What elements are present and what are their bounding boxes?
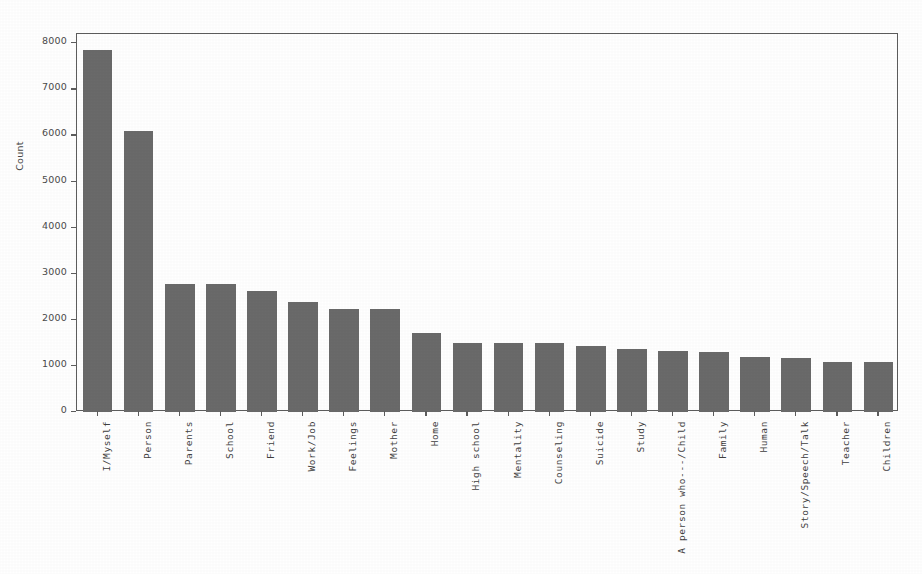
x-tick-mark [97, 411, 98, 416]
y-tick: 3000 [0, 273, 76, 274]
x-tick-label: Family [717, 421, 728, 459]
x-tick-label: Teacher [840, 421, 851, 465]
y-tick-mark [71, 411, 76, 412]
x-tick-label: Mentality [512, 421, 523, 478]
x-tick-mark [179, 411, 180, 416]
bar-chart-figure: Count 010002000300040005000600070008000 … [0, 0, 922, 574]
x-tick-label: Friend [265, 421, 276, 459]
x-tick-label: School [224, 421, 235, 459]
bar [658, 351, 688, 412]
x-tick-mark [590, 411, 591, 416]
y-tick-label: 8000 [42, 35, 67, 46]
bar [370, 309, 400, 412]
x-tick-label: Study [635, 421, 646, 453]
plot-area [76, 33, 898, 411]
bar [576, 346, 606, 412]
y-tick-label: 7000 [42, 81, 67, 92]
x-tick-mark [549, 411, 550, 416]
bar [740, 357, 770, 412]
x-tick-label: Counseling [553, 421, 564, 484]
bar [165, 284, 195, 412]
y-tick: 2000 [0, 319, 76, 320]
y-tick-label: 2000 [42, 312, 67, 323]
x-tick-mark [425, 411, 426, 416]
y-tick: 8000 [0, 42, 76, 43]
bar [699, 352, 729, 412]
bar [823, 362, 853, 412]
bar [864, 362, 894, 412]
y-tick-label: 0 [61, 404, 67, 415]
bar [412, 333, 442, 412]
bar [83, 50, 113, 412]
x-tick-mark [384, 411, 385, 416]
y-tick: 7000 [0, 88, 76, 89]
x-tick-label: Human [758, 421, 769, 453]
bar [329, 309, 359, 412]
bar [124, 131, 154, 412]
bar [535, 343, 565, 412]
x-tick-mark [713, 411, 714, 416]
bar [494, 343, 524, 412]
x-tick-mark [508, 411, 509, 416]
y-tick-label: 5000 [42, 174, 67, 185]
y-tick: 4000 [0, 227, 76, 228]
x-tick-label: Children [881, 421, 892, 472]
x-tick-mark [631, 411, 632, 416]
x-tick-mark [877, 411, 878, 416]
bar [617, 349, 647, 412]
x-tick-mark [795, 411, 796, 416]
y-tick-label: 1000 [42, 358, 67, 369]
x-tick-mark [138, 411, 139, 416]
bar [247, 291, 277, 412]
x-tick-mark [302, 411, 303, 416]
x-tick-label: Story/Speech/Talk [799, 421, 810, 528]
y-tick-label: 3000 [42, 266, 67, 277]
y-tick: 6000 [0, 134, 76, 135]
bar [288, 302, 318, 412]
x-tick-mark [754, 411, 755, 416]
x-tick-label: I/Myself [101, 421, 112, 472]
y-tick: 0 [0, 411, 76, 412]
bar [781, 358, 811, 412]
x-tick-label: High school [470, 421, 481, 491]
x-tick-mark [836, 411, 837, 416]
x-tick-mark [220, 411, 221, 416]
x-tick-label: Person [142, 421, 153, 459]
y-axis-label: Count [14, 116, 30, 196]
x-tick-mark [261, 411, 262, 416]
y-tick: 1000 [0, 365, 76, 366]
bar [453, 343, 483, 412]
x-tick-label: Work/Job [306, 421, 317, 472]
x-tick-mark [672, 411, 673, 416]
x-tick-mark [343, 411, 344, 416]
x-tick-label: Feelings [347, 421, 358, 472]
x-tick-label: Parents [183, 421, 194, 465]
x-tick-label: Home [429, 421, 440, 446]
y-tick-label: 6000 [42, 127, 67, 138]
bar [206, 284, 236, 412]
x-tick-label: Suicide [594, 421, 605, 465]
y-tick-label: 4000 [42, 220, 67, 231]
y-tick: 5000 [0, 181, 76, 182]
x-tick-label: A person who---/Child [676, 421, 687, 554]
x-tick-label: Mother [388, 421, 399, 459]
x-tick-mark [466, 411, 467, 416]
